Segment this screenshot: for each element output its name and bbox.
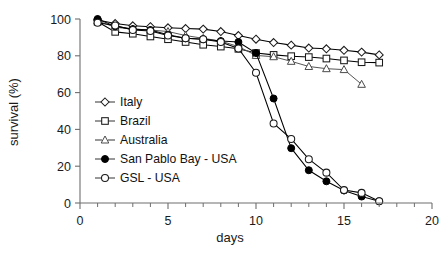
legend-marker [102,175,109,182]
data-point-marker [270,39,278,47]
x-tick-label: 5 [165,214,172,228]
legend-marker [102,156,109,163]
x-tick-label: 0 [77,214,84,228]
legend-item-italy[interactable]: Italy [95,95,143,109]
data-point-marker [182,35,189,42]
x-tick-label: 15 [337,214,351,228]
legend-marker [101,136,109,143]
legend-marker [101,98,109,106]
legend-item-brazil[interactable]: Brazil [95,114,150,128]
legend-item-san-pablo-bay-usa[interactable]: San Pablo Bay - USA [95,152,237,166]
data-point-marker [235,45,242,52]
data-point-marker [288,145,295,152]
legend-label: San Pablo Bay - USA [120,152,237,166]
legend-label: GSL - USA [120,171,181,185]
x-tick-label: 10 [249,214,263,228]
data-point-marker [94,19,101,26]
data-point-marker [129,27,136,34]
x-axis-title: days [216,230,244,245]
data-point-marker [270,95,277,102]
data-point-marker [288,135,295,142]
y-tick-label: 0 [64,197,71,211]
data-point-marker [199,25,207,33]
data-point-marker [376,59,383,66]
chart-figure: 020406080100 05101520 ItalyBrazilAustral… [0,0,448,253]
y-tick-label: 60 [57,86,71,100]
data-point-marker [358,80,366,87]
data-point-marker [341,57,348,64]
data-point-marker [305,167,312,174]
data-point-marker [375,51,383,59]
data-point-marker [217,39,224,46]
data-point-marker [340,46,348,54]
data-point-marker [147,27,154,34]
x-tick-label: 20 [425,214,439,228]
legend-item-australia[interactable]: Australia [95,133,168,147]
data-point-marker [323,169,330,176]
y-tick-labels: 020406080100 [50,13,71,211]
y-tick-label: 100 [50,13,71,27]
data-point-marker [305,44,313,52]
y-tick-label: 80 [57,49,71,63]
legend-marker [102,118,109,125]
y-axis-title: survival (%) [6,78,21,146]
data-point-marker [305,156,312,163]
survival-line-chart: 020406080100 05101520 ItalyBrazilAustral… [0,0,448,253]
legend-label: Australia [120,133,168,147]
data-point-marker [358,59,365,66]
data-point-marker [323,178,330,185]
data-point-marker [358,189,365,196]
legend-label: Italy [120,95,143,109]
data-point-marker [306,54,313,61]
data-point-marker [200,36,207,43]
data-point-marker [253,69,260,76]
legend-item-gsl-usa[interactable]: GSL - USA [95,171,181,185]
data-point-marker [323,55,330,62]
data-point-marker [252,35,260,43]
data-point-marker [322,45,330,53]
data-point-marker [287,41,295,49]
y-tick-label: 20 [57,160,71,174]
x-tick-labels: 05101520 [77,214,439,228]
chart-legend: ItalyBrazilAustraliaSan Pablo Bay - USAG… [95,95,237,185]
y-tick-label: 40 [57,123,71,137]
data-point-marker [358,48,366,56]
data-point-marker [165,32,172,39]
data-point-marker [112,22,119,29]
data-point-marker [270,120,277,127]
legend-label: Brazil [120,114,150,128]
data-point-marker [253,50,260,57]
data-point-marker [217,28,225,36]
data-point-marker [341,187,348,194]
